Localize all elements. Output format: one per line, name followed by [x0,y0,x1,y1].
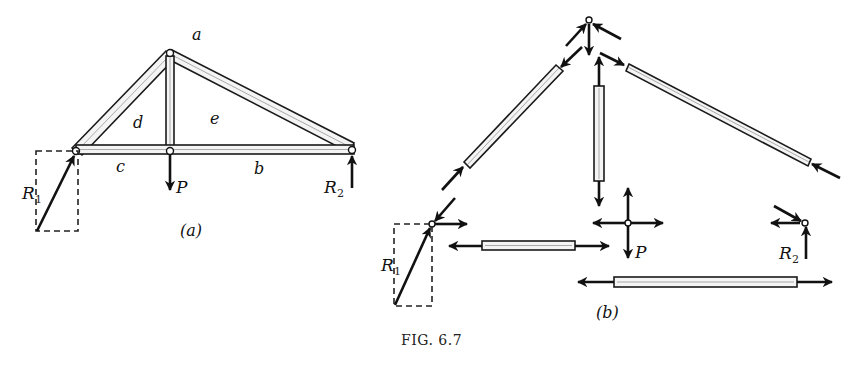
svg-text:2: 2 [792,253,799,266]
svg-text:R: R [778,243,792,263]
joint-left-support-b: R 1 [380,198,467,306]
joint-apex-b [566,17,621,55]
space-label-c: c [116,157,125,176]
svg-text:2: 2 [337,187,344,200]
member-left-rafter-b [442,47,582,190]
pin-middle-a [167,148,174,155]
svg-text:R: R [323,177,337,197]
load-label-r2-b: R 2 [778,243,799,266]
truss-part-a: a d e c b P R 1 R 2 (a) [21,25,356,240]
svg-text:1: 1 [35,193,42,206]
joint-middle-bottom-b: P [593,188,663,262]
member-right-rafter-b [600,53,840,178]
member-bottom-chord-left-b [449,241,609,250]
svg-text:R: R [21,183,35,203]
pin-apex-b [586,17,592,23]
member-right-rafter-a [170,50,354,153]
member-bottom-chord-right-b [578,277,832,287]
space-label-b: b [254,159,264,178]
pin-right-a [349,147,356,154]
space-label-d: d [133,113,143,132]
load-label-p-a: P [175,177,188,197]
part-label-a: (a) [180,221,202,240]
svg-text:1: 1 [394,265,401,278]
joint-right-support-b: R 2 [771,206,808,266]
load-label-r1-b: R 1 [380,255,401,278]
member-left-rafter-a [72,51,175,155]
member-bottom-chord-a [76,145,354,154]
space-label-a: a [192,25,202,44]
part-label-b: (b) [596,303,619,322]
figure-caption: FIG. 6.7 [401,332,462,348]
truss-figure: a d e c b P R 1 R 2 (a) [0,0,862,367]
load-label-p-b: P [634,242,647,262]
svg-text:R: R [380,255,394,275]
load-label-r2-a: R 2 [323,177,344,200]
space-label-e: e [210,109,219,128]
load-label-r1-a: R 1 [21,183,42,206]
r1-arrow-a [37,156,74,231]
member-vertical-a [166,56,174,149]
pin-apex-a [167,50,174,57]
truss-part-b: R 1 P R 2 [380,17,840,322]
member-vertical-b [594,57,604,206]
